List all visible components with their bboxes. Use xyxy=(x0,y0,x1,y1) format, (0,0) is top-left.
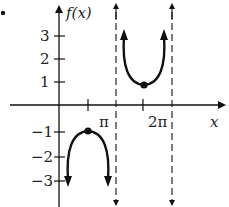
y-tick-label-neg2: −2 xyxy=(31,148,53,166)
bullet-mark xyxy=(1,11,5,15)
arrowhead-left-1 xyxy=(64,176,72,187)
x-tick-label-2pi: 2π xyxy=(148,113,168,131)
y-tick-label-1: 1 xyxy=(40,73,50,91)
y-axis-label: f(x) xyxy=(65,4,92,22)
max-point xyxy=(84,127,91,134)
cosecant-graph: f(x) x π 2π 3 2 1 −1 −2 −3 xyxy=(0,0,229,207)
x-tick-label-pi: π xyxy=(99,113,109,131)
curve-branch-1 xyxy=(68,131,109,180)
arrowhead-left-2 xyxy=(120,29,128,40)
y-tick-label-neg1: −1 xyxy=(31,123,53,141)
x-axis-label: x xyxy=(210,113,219,131)
min-point xyxy=(140,81,147,88)
arrowhead-right-1 xyxy=(104,176,112,187)
y-tick-label-2: 2 xyxy=(40,50,50,68)
curve-branch-2 xyxy=(124,36,165,85)
y-tick-label-3: 3 xyxy=(40,27,50,45)
y-tick-label-neg3: −3 xyxy=(31,172,53,190)
arrowhead-right-2 xyxy=(160,29,168,40)
